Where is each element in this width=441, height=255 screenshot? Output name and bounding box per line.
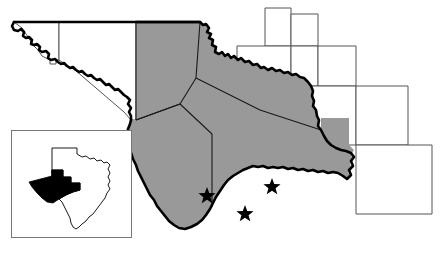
map-figure	[0, 0, 441, 255]
county-upper-2	[291, 14, 318, 46]
star-marker-2[interactable]	[236, 205, 253, 221]
county-upper-5	[318, 46, 356, 86]
county-east-2	[356, 86, 408, 145]
county-upper-1	[265, 8, 291, 46]
county-east-3	[356, 145, 432, 214]
county-hudspeth	[59, 22, 136, 120]
star-marker-3[interactable]	[263, 178, 280, 194]
texas-locator-inset	[11, 130, 132, 238]
inset-map	[11, 130, 132, 238]
